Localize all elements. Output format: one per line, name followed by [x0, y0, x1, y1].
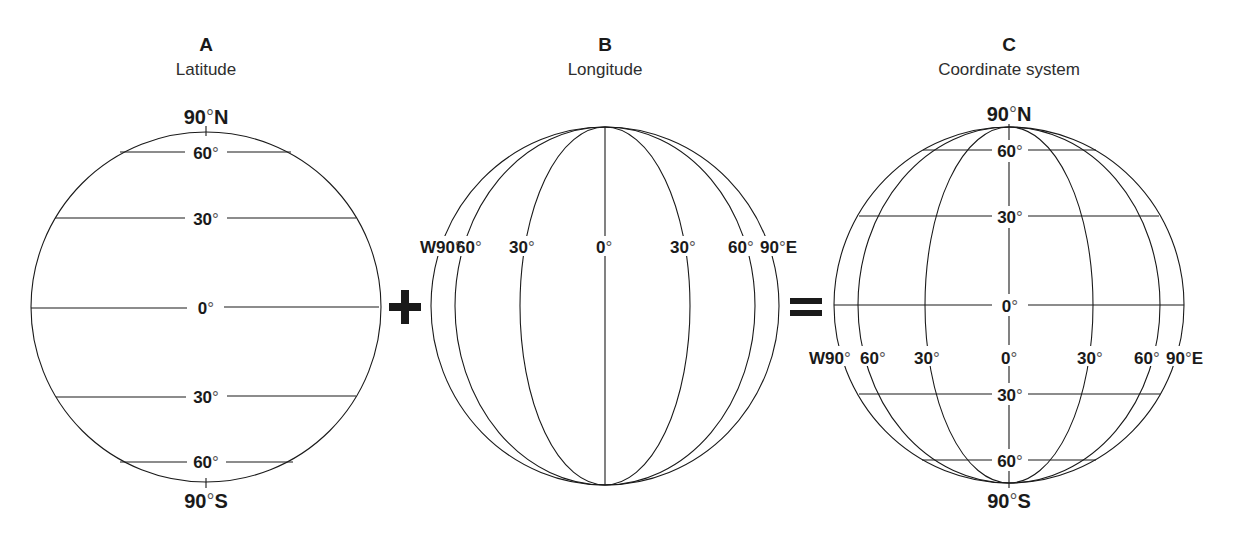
c-lat-label-30s: 30° [997, 386, 1023, 405]
c-lat-label-60n: 60° [997, 142, 1023, 161]
lat-label-30n: 30° [193, 210, 219, 229]
globe-coordinate-system: 90°N 60° 30° 0° 30° 60° 90°S W90° 60° 30… [809, 103, 1203, 512]
lon-label-60e: 60° [728, 238, 754, 257]
c-south-pole-label: 90°S [987, 490, 1031, 512]
c-lon-label-90w: W90° [809, 349, 851, 368]
c-lon-label-30w: 30° [914, 349, 940, 368]
c-lat-label-0: 0° [1002, 297, 1018, 316]
lon-label-0: 0° [596, 238, 612, 257]
lon-label-60w: 60° [456, 238, 482, 257]
equals-operator [790, 298, 822, 316]
c-lat-label-60s: 60° [997, 452, 1023, 471]
lat-label-0: 0° [198, 299, 214, 318]
lat-label-30s: 30° [193, 388, 219, 407]
c-lon-label-60e: 60° [1134, 349, 1160, 368]
globe-diagram: 90°N 60° 30° 0° 30° 60° 90°S [0, 0, 1239, 536]
c-lon-label-0: 0° [1001, 349, 1017, 368]
c-lon-label-30e: 30° [1077, 349, 1103, 368]
plus-operator [389, 290, 421, 324]
globe-longitude: W90° 60° 30° 0° 30° 60° 90°E [420, 127, 797, 485]
lat-label-60s: 60° [193, 453, 219, 472]
lon-label-90e: 90°E [760, 238, 797, 257]
lon-label-30e: 30° [670, 238, 696, 257]
lon-label-30w: 30° [509, 238, 535, 257]
globe-latitude: 90°N 60° 30° 0° 30° 60° 90°S [31, 106, 381, 512]
south-pole-label: 90°S [184, 490, 228, 512]
c-lon-label-90e: 90°E [1166, 349, 1203, 368]
c-lon-label-60w: 60° [860, 349, 886, 368]
c-north-pole-label: 90°N [987, 103, 1032, 125]
north-pole-label: 90°N [184, 106, 229, 128]
lat-label-60n: 60° [193, 144, 219, 163]
c-lat-label-30n: 30° [997, 208, 1023, 227]
